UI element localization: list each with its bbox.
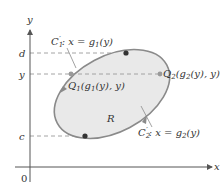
tick-label-y: y — [18, 69, 25, 80]
curve-c1-label: C1′: x = g1(y) — [51, 35, 113, 49]
dot-top — [123, 50, 128, 55]
x-axis-label: x — [214, 161, 220, 172]
origin-label: 0 — [21, 173, 27, 184]
y-axis-label: y — [26, 14, 33, 25]
curve-c2-label: C2′: x = g2(y) — [138, 126, 200, 140]
point-q2-label: Q2(g2(y), y) — [163, 68, 220, 81]
dot-q2 — [158, 72, 163, 77]
dot-q1 — [69, 72, 74, 77]
tick-label-c: c — [19, 131, 25, 142]
leader-c1 — [67, 48, 76, 68]
green-theorem-region-diagram: y x 0 d y c R C1′: x = g1(y) C2′: x = g2… — [0, 0, 224, 194]
dot-bottom — [82, 133, 87, 138]
region-label: R — [106, 113, 115, 124]
tick-label-d: d — [19, 48, 25, 59]
